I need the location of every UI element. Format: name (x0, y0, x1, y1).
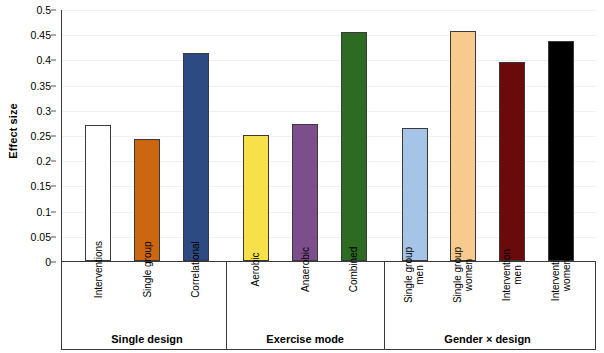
y-axis-tick-mark (51, 85, 56, 86)
y-axis-tick-mark (51, 236, 56, 237)
effect-size-bar-chart: Effect size 0.50.450.40.350.30.250.20.15… (0, 0, 604, 353)
gridline (62, 10, 596, 11)
x-axis-category-label-text: Single group (142, 241, 153, 297)
x-axis-category-label-text: Combined (348, 247, 359, 293)
x-axis-category-label-text: Interventionmen (501, 249, 523, 301)
y-axis-tick-label: 0.2 (36, 155, 51, 167)
x-axis-category-label-text: Interventionwomen (550, 249, 572, 301)
y-axis-tick-mark (51, 186, 56, 187)
x-axis-category-label: Interventionwomen (529, 264, 593, 328)
y-axis-tick-label: 0.15 (31, 180, 51, 192)
y-axis-tick-labels: 0.50.450.40.350.30.250.20.150.10.050 (24, 10, 56, 262)
y-axis-tick-mark (51, 136, 56, 137)
y-axis-tick-label: 0.45 (31, 29, 51, 41)
y-axis-tick-mark (51, 60, 56, 61)
x-axis-category-label: Combined (322, 264, 386, 328)
bar[interactable] (499, 62, 525, 261)
y-axis-tick-mark (51, 211, 56, 212)
group-title: Exercise mode (225, 333, 385, 345)
y-axis-tick-label: 0.1 (36, 206, 51, 218)
x-axis-category-label-text: Anaerobic (300, 247, 311, 292)
x-axis-category-label-text: Single groupmen (404, 247, 426, 303)
y-axis-tick-label: 0.4 (36, 54, 51, 66)
bar[interactable] (292, 124, 318, 261)
x-axis-category-label-text: Correlational (190, 241, 201, 298)
y-axis-tick-mark (51, 262, 56, 263)
y-axis-tick-mark (51, 110, 56, 111)
y-axis-title-text: Effect size (7, 103, 19, 159)
bar[interactable] (402, 128, 428, 261)
group-title: Single design (67, 333, 227, 345)
y-axis-tick-mark (51, 35, 56, 36)
bar[interactable] (548, 41, 574, 261)
x-axis-category-label-text: Single groupwomen (452, 247, 474, 303)
x-axis-category-label: Correlational (164, 264, 228, 328)
x-axis-category-label-text: Aerobic (251, 253, 262, 287)
y-axis-tick-label: 0.3 (36, 105, 51, 117)
x-axis-category-label-text: Interventions (93, 241, 104, 298)
y-axis-tick-label: 0.05 (31, 231, 51, 243)
y-axis-tick-label: 0.5 (36, 4, 51, 16)
y-axis-tick-label: 0.25 (31, 130, 51, 142)
bar[interactable] (341, 32, 367, 261)
y-axis-title: Effect size (2, 0, 24, 262)
y-axis-tick-label: 0.35 (31, 80, 51, 92)
bar[interactable] (450, 31, 476, 261)
y-axis-tick-mark (51, 161, 56, 162)
group-title: Gender × design (408, 333, 568, 345)
plot-area (61, 10, 596, 262)
bar[interactable] (243, 135, 269, 262)
gridline (62, 60, 596, 61)
y-axis-tick-mark (51, 10, 56, 11)
bar[interactable] (183, 53, 209, 261)
gridline (62, 35, 596, 36)
x-axis-category-band: InterventionsSingle groupCorrelationalAe… (61, 262, 596, 350)
